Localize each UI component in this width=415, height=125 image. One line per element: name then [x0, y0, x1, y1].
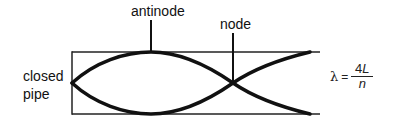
closed-pipe-label-line1: closed: [23, 67, 63, 85]
antinode-label: antinode: [131, 3, 185, 19]
numerator-variable: L: [362, 61, 369, 76]
fraction-numerator: 4L: [354, 62, 370, 76]
fraction: 4L n: [351, 62, 373, 91]
fraction-denominator: n: [359, 77, 366, 91]
wavelength-formula: λ = 4L n: [330, 62, 373, 91]
closed-pipe-label: closed pipe: [23, 67, 63, 103]
equals-sign: =: [341, 70, 348, 84]
lambda-symbol: λ: [330, 69, 338, 84]
closed-pipe-label-line2: pipe: [23, 85, 63, 103]
node-label: node: [220, 16, 251, 32]
